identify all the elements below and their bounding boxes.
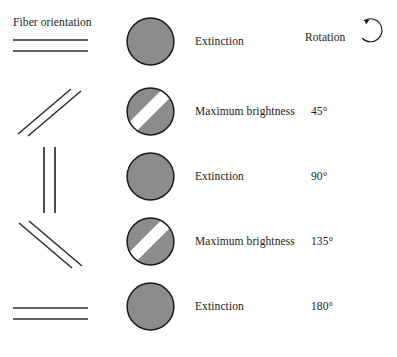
fiber-orientation-row-5	[0, 298, 115, 330]
rotation-arrow-icon	[352, 12, 392, 50]
micrograph-disc-row-3	[126, 152, 175, 201]
appearance-label-row-2: Maximum brightness	[195, 105, 295, 117]
appearance-label-row-1: Extinction	[195, 35, 244, 47]
polarized-light-fiber-figure: Fiber orientation Rotation Extinction	[0, 0, 397, 357]
rotation-column-header: Rotation	[305, 31, 345, 43]
fiber-orientation-column-header: Fiber orientation	[13, 16, 92, 28]
rotation-value-row-4: 135°	[311, 235, 333, 247]
micrograph-disc-row-4	[126, 217, 175, 266]
fiber-orientation-row-1	[0, 30, 115, 62]
rotation-value-row-3: 90°	[311, 170, 327, 182]
micrograph-disc-row-2	[126, 87, 175, 136]
fiber-orientation-row-2	[0, 86, 115, 138]
fiber-orientation-row-4	[0, 218, 115, 270]
appearance-label-row-3: Extinction	[195, 170, 244, 182]
rotation-value-row-5: 180°	[311, 300, 333, 312]
micrograph-disc-row-5	[126, 282, 175, 331]
rotation-value-row-2: 45°	[311, 105, 327, 117]
fiber-orientation-row-3	[0, 145, 115, 217]
appearance-label-row-5: Extinction	[195, 300, 244, 312]
micrograph-disc-row-1	[126, 17, 175, 66]
appearance-label-row-4: Maximum brightness	[195, 235, 295, 247]
